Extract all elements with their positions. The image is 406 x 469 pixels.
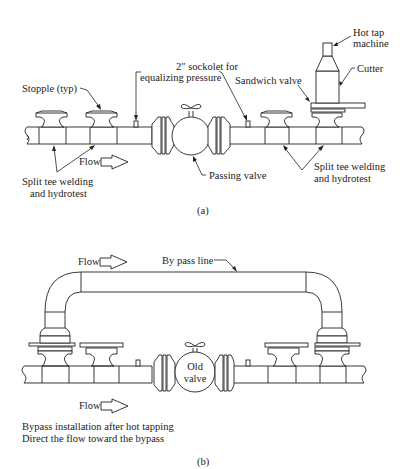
label-split-tee-left-2: and hydrotest <box>30 188 87 199</box>
bypass-pipe <box>45 272 342 328</box>
sockolet-b-right <box>246 360 250 366</box>
note-line-2: Direct the flow toward the bypass <box>22 433 164 444</box>
label-split-tee-right-1: Split tee welding <box>314 161 386 172</box>
stopple-a-2 <box>86 111 117 127</box>
old-valve: Old valve <box>175 342 215 392</box>
bypass-riser-left <box>29 328 75 366</box>
pipe-b-left <box>22 366 152 383</box>
label-old-valve-1: Old <box>187 361 204 372</box>
stopple-a-1 <box>36 111 67 127</box>
label-sockolet-1: 2″ sockolet for <box>176 61 239 72</box>
flange-b-right <box>215 355 234 391</box>
passing-valve <box>172 104 210 155</box>
label-hot-tap-1: Hot tap <box>353 27 384 38</box>
pipeline-diagram: Hot tap machine Cutter 2″ sockolet for e… <box>0 0 406 469</box>
flow-arrow-b-bottom <box>101 399 128 413</box>
label-flow-top: Flow <box>78 256 100 267</box>
sockolet-b-left <box>136 360 140 366</box>
label-stopple: Stopple (typ) <box>22 83 78 95</box>
label-old-valve-2: valve <box>184 373 207 384</box>
flow-arrow-a <box>101 155 128 169</box>
caption-b: (b) <box>197 456 210 468</box>
stopple-b-2 <box>80 343 123 366</box>
caption-a: (a) <box>197 205 209 217</box>
label-split-tee-left-1: Split tee welding <box>22 176 94 187</box>
figure-a: Hot tap machine Cutter 2″ sockolet for e… <box>22 27 389 217</box>
label-bypass-line: By pass line <box>162 255 214 266</box>
label-sockolet-2: equalizing pressure <box>140 72 222 83</box>
label-cutter: Cutter <box>357 63 384 74</box>
note-line-1: Bypass installation after hot tapping <box>22 421 174 432</box>
bypass-riser-right <box>315 328 360 366</box>
label-flow-bottom: Flow <box>79 400 101 411</box>
label-sandwich-valve: Sandwich valve <box>235 75 302 86</box>
pipe-a-left <box>25 127 152 144</box>
hot-tap-plate <box>311 103 365 108</box>
label-passing-valve: Passing valve <box>209 170 267 181</box>
hot-tap-machine-head <box>323 43 332 56</box>
stopple-b-3 <box>265 343 308 366</box>
sockolet-a-right <box>246 121 250 127</box>
pipe-a-right <box>230 127 364 144</box>
sockolet-a-left <box>134 121 138 127</box>
flange-a-right <box>208 117 230 154</box>
sandwich-valve-body <box>311 109 345 112</box>
stopple-a-3 <box>261 111 292 127</box>
cutter-body <box>316 71 339 103</box>
flange-b-left <box>154 355 175 391</box>
stopple-a-4-with-hot-tap <box>311 43 365 127</box>
flange-a-left <box>152 117 174 154</box>
label-flow-a: Flow <box>79 156 101 167</box>
figure-b: Flow By pass line <box>22 255 366 468</box>
label-hot-tap-2: machine <box>353 38 389 49</box>
flow-arrow-b-top <box>100 255 127 269</box>
label-split-tee-right-2: and hydrotest <box>314 173 371 184</box>
pipe-b-right <box>234 366 366 383</box>
